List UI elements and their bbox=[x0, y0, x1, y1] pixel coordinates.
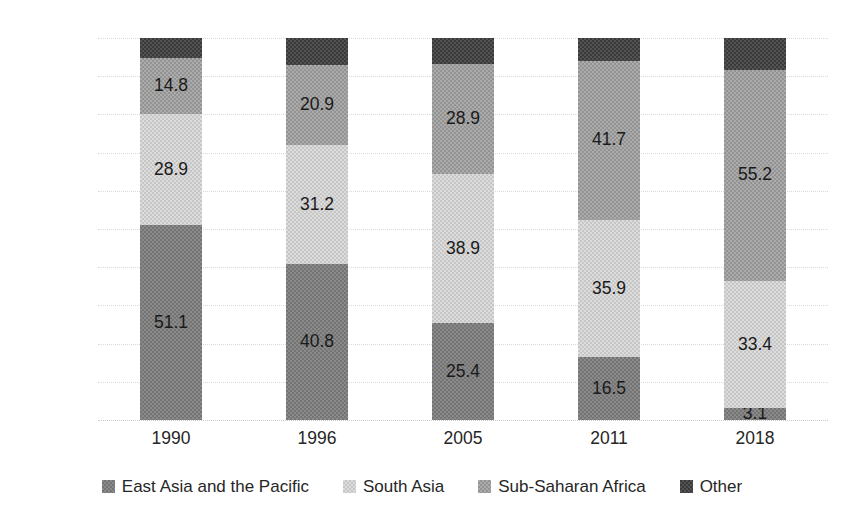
bar-group-2005[interactable]: 25.438.928.9 bbox=[432, 38, 494, 420]
bar-segment-value-label: 38.9 bbox=[446, 240, 480, 258]
legend-item-other[interactable]: Other bbox=[680, 478, 743, 495]
legend-label: Other bbox=[700, 478, 743, 495]
legend-label: East Asia and the Pacific bbox=[122, 478, 309, 495]
bar-segment-sub-saharan-africa-1996[interactable]: 20.9 bbox=[286, 65, 348, 145]
bar-segment-east-asia-and-the-pacific-2005[interactable]: 25.4 bbox=[432, 323, 494, 420]
legend-swatch-other-icon bbox=[680, 480, 693, 493]
bar-segment-east-asia-and-the-pacific-1996[interactable]: 40.8 bbox=[286, 264, 348, 420]
bar-segment-value-label: 33.4 bbox=[738, 336, 772, 354]
legend-item-east-asia-and-the-pacific[interactable]: East Asia and the Pacific bbox=[102, 478, 309, 495]
bar-segment-value-label: 16.5 bbox=[592, 380, 626, 398]
bar-segment-value-label: 20.9 bbox=[300, 96, 334, 114]
stacked-bar-chart: 51.128.914.840.831.220.925.438.928.916.5… bbox=[0, 0, 844, 528]
bar-segment-other-2011[interactable] bbox=[578, 38, 640, 61]
bar-segment-south-asia-1990[interactable]: 28.9 bbox=[140, 114, 202, 224]
x-axis-tick-label-2005: 2005 bbox=[403, 430, 523, 448]
bar-segment-south-asia-2018[interactable]: 33.4 bbox=[724, 281, 786, 409]
x-axis-tick-label-1990: 1990 bbox=[111, 430, 231, 448]
bar-segment-south-asia-2011[interactable]: 35.9 bbox=[578, 220, 640, 357]
bar-segment-south-asia-1996[interactable]: 31.2 bbox=[286, 145, 348, 264]
bar-segment-value-label: 35.9 bbox=[592, 280, 626, 298]
bar-segment-value-label: 28.9 bbox=[446, 110, 480, 128]
bar-segment-east-asia-and-the-pacific-1990[interactable]: 51.1 bbox=[140, 225, 202, 420]
bar-group-2018[interactable]: 3.133.455.2 bbox=[724, 38, 786, 420]
legend-item-sub-saharan-africa[interactable]: Sub-Saharan Africa bbox=[478, 478, 645, 495]
legend-item-south-asia[interactable]: South Asia bbox=[343, 478, 444, 495]
bar-segment-other-2018[interactable] bbox=[724, 38, 786, 70]
bar-group-2011[interactable]: 16.535.941.7 bbox=[578, 38, 640, 420]
bar-group-1996[interactable]: 40.831.220.9 bbox=[286, 38, 348, 420]
bar-segment-south-asia-2005[interactable]: 38.9 bbox=[432, 174, 494, 323]
bar-segment-east-asia-and-the-pacific-2011[interactable]: 16.5 bbox=[578, 357, 640, 420]
x-axis-tick-label-1996: 1996 bbox=[257, 430, 377, 448]
bar-segment-sub-saharan-africa-2005[interactable]: 28.9 bbox=[432, 64, 494, 174]
bar-segment-sub-saharan-africa-2018[interactable]: 55.2 bbox=[724, 70, 786, 281]
bar-segment-value-label: 3.1 bbox=[743, 408, 767, 420]
bar-segment-value-label: 51.1 bbox=[154, 314, 188, 332]
bar-segment-other-1990[interactable] bbox=[140, 38, 202, 58]
bar-segment-value-label: 31.2 bbox=[300, 196, 334, 214]
legend-swatch-east-asia-and-the-pacific-icon bbox=[102, 480, 115, 493]
x-axis-tick-label-2011: 2011 bbox=[549, 430, 669, 448]
bar-segment-sub-saharan-africa-2011[interactable]: 41.7 bbox=[578, 61, 640, 220]
bar-segment-value-label: 41.7 bbox=[592, 131, 626, 149]
bar-segment-other-1996[interactable] bbox=[286, 38, 348, 65]
gridline-0 bbox=[98, 420, 828, 421]
legend-label: South Asia bbox=[363, 478, 444, 495]
bar-segment-value-label: 25.4 bbox=[446, 363, 480, 381]
plot-area: 51.128.914.840.831.220.925.438.928.916.5… bbox=[98, 38, 828, 420]
bar-segment-value-label: 28.9 bbox=[154, 161, 188, 179]
bar-segment-sub-saharan-africa-1990[interactable]: 14.8 bbox=[140, 58, 202, 115]
bar-segment-value-label: 14.8 bbox=[154, 77, 188, 95]
bar-segment-other-2005[interactable] bbox=[432, 38, 494, 64]
chart-legend: East Asia and the PacificSouth AsiaSub-S… bbox=[0, 478, 844, 495]
legend-swatch-sub-saharan-africa-icon bbox=[478, 480, 491, 493]
bar-segment-east-asia-and-the-pacific-2018[interactable]: 3.1 bbox=[724, 408, 786, 420]
bar-group-1990[interactable]: 51.128.914.8 bbox=[140, 38, 202, 420]
x-axis-tick-label-2018: 2018 bbox=[695, 430, 815, 448]
legend-label: Sub-Saharan Africa bbox=[498, 478, 645, 495]
bar-segment-value-label: 55.2 bbox=[738, 166, 772, 184]
legend-swatch-south-asia-icon bbox=[343, 480, 356, 493]
bar-segment-value-label: 40.8 bbox=[300, 333, 334, 351]
